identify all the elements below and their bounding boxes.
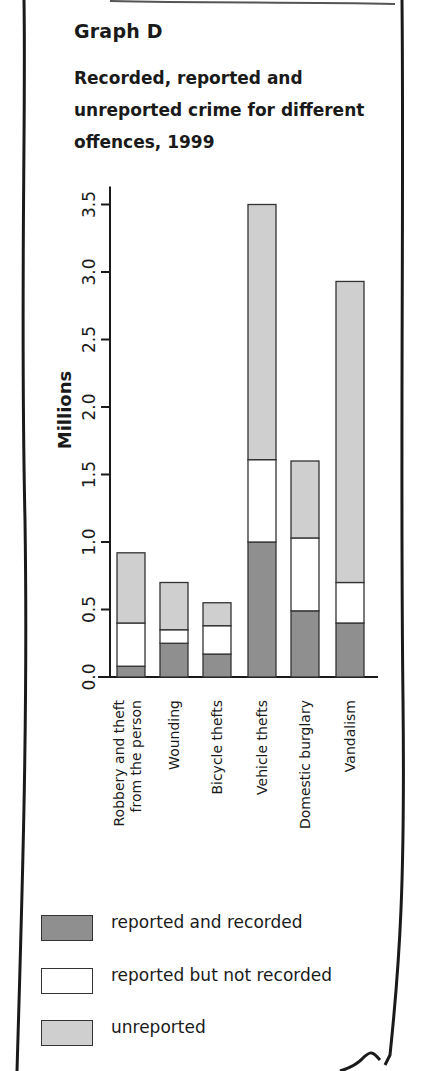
legend-swatch-dark xyxy=(41,915,93,941)
legend-label: reported but not recorded xyxy=(111,965,332,985)
bar-segment-unreported xyxy=(291,461,319,538)
bar-segment-unreported xyxy=(160,583,188,630)
bar-segment-reported-but-not-recorded xyxy=(160,630,188,644)
category-label: Vehicle thefts xyxy=(254,700,270,795)
y-tick-label: 1.0 xyxy=(79,528,99,555)
y-tick-label: 2.0 xyxy=(79,393,99,420)
category-label: from the person xyxy=(128,700,144,812)
legend-swatch-light xyxy=(41,1020,93,1046)
y-axis-label: Millions xyxy=(54,371,75,450)
category-label: Domestic burglary xyxy=(297,700,313,829)
bar-segment-reported-and-recorded xyxy=(203,654,231,677)
legend-label: unreported xyxy=(111,1017,206,1037)
bar-segment-reported-but-not-recorded xyxy=(203,626,231,654)
legend-label: reported and recorded xyxy=(111,912,303,932)
bar-segment-unreported xyxy=(248,205,276,460)
category-label: Vandalism xyxy=(342,700,358,772)
y-tick-label: 3.0 xyxy=(79,258,99,285)
category-label: Wounding xyxy=(166,700,182,770)
bar-segment-unreported xyxy=(203,603,231,626)
bar-segment-reported-and-recorded xyxy=(160,643,188,677)
bar-segment-reported-and-recorded xyxy=(336,623,364,677)
bar-segment-reported-but-not-recorded xyxy=(336,583,364,624)
category-label: Bicycle thefts xyxy=(209,700,225,795)
bar-segment-reported-but-not-recorded xyxy=(291,538,319,611)
bar-segment-reported-and-recorded xyxy=(248,542,276,677)
bar-segment-reported-and-recorded xyxy=(117,666,145,677)
bar-segment-reported-but-not-recorded xyxy=(248,460,276,542)
y-tick-label: 3.5 xyxy=(79,191,99,218)
y-tick-label: 1.5 xyxy=(79,461,99,488)
bar-segment-reported-but-not-recorded xyxy=(117,623,145,666)
bar-segment-unreported xyxy=(336,281,364,582)
y-tick-label: 0.0 xyxy=(79,663,99,690)
category-label: Robbery and theft xyxy=(111,699,127,826)
y-tick-label: 2.5 xyxy=(79,326,99,353)
stacked-bar-chart: 0.00.51.01.52.02.53.03.5MillionsRobbery … xyxy=(0,0,425,900)
y-tick-label: 0.5 xyxy=(79,596,99,623)
bar-segment-unreported xyxy=(117,553,145,623)
legend-swatch-white xyxy=(41,968,93,994)
bar-segment-reported-and-recorded xyxy=(291,611,319,677)
